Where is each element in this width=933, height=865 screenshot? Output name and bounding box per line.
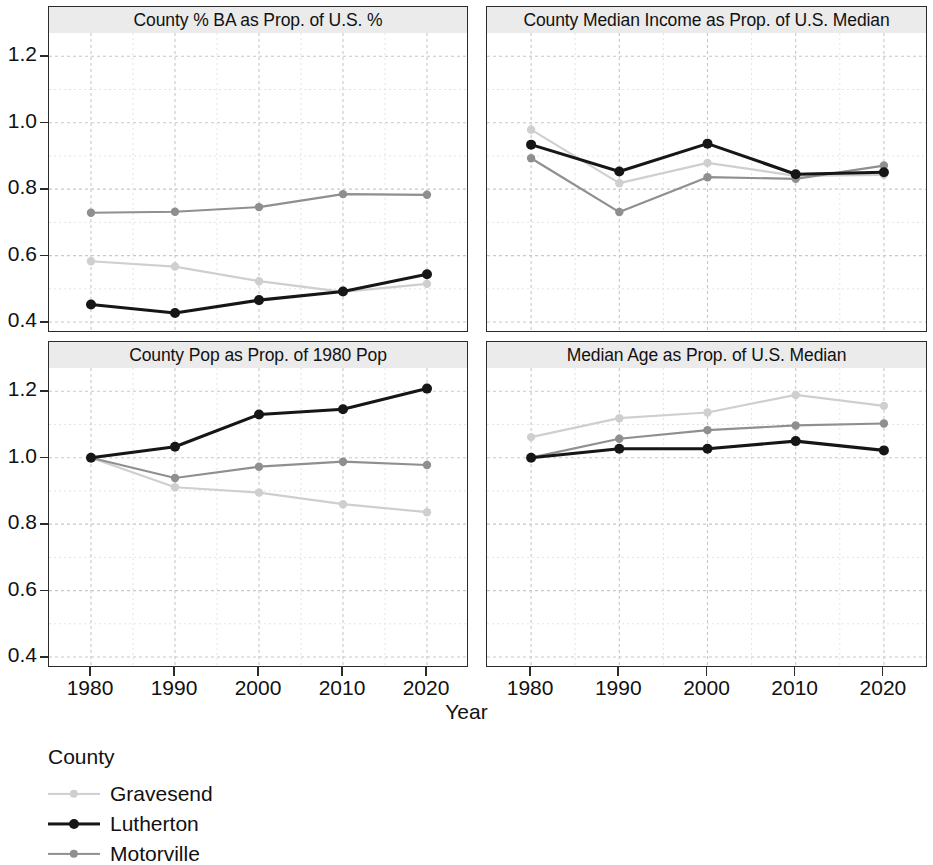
plot-area-ba	[48, 33, 468, 332]
plot-canvas	[487, 368, 927, 667]
data-point	[791, 169, 801, 179]
legend-item-label: Gravesend	[110, 782, 213, 806]
data-point	[423, 191, 431, 199]
y-axis-tick-label: 0.6	[0, 242, 37, 266]
facet-strip-income: County Median Income as Prop. of U.S. Me…	[486, 6, 927, 34]
data-point	[339, 457, 347, 465]
x-axis-tick-label: 1980	[67, 676, 114, 700]
data-point	[703, 173, 711, 181]
x-axis-tick-mark	[257, 667, 259, 676]
data-point	[339, 500, 347, 508]
legend-item[interactable]: Lutherton	[48, 809, 213, 839]
y-axis-tick-label: 1.0	[0, 444, 37, 468]
y-axis-tick-label: 0.8	[0, 175, 37, 199]
data-point	[170, 442, 180, 452]
data-point	[170, 308, 180, 318]
facet-title-median-age: Median Age as Prop. of U.S. Median	[567, 345, 847, 366]
x-axis-tick-label: 1980	[507, 676, 554, 700]
legend-swatch-icon	[48, 845, 100, 863]
data-point	[615, 179, 623, 187]
plot-area-income	[486, 33, 927, 332]
data-point	[792, 391, 800, 399]
data-point	[339, 190, 347, 198]
y-axis-tick-label: 0.4	[0, 308, 37, 332]
plot-canvas	[487, 33, 927, 332]
data-point	[791, 436, 801, 446]
x-axis-tick-label: 1990	[595, 676, 642, 700]
facet-strip-ba: County % BA as Prop. of U.S. %	[48, 6, 468, 34]
facet-strip-population: County Pop as Prop. of 1980 Pop	[48, 341, 468, 369]
x-axis-tick-label: 2020	[403, 676, 450, 700]
data-point	[614, 167, 624, 177]
x-axis-tick-label: 1990	[151, 676, 198, 700]
legend-item-label: Lutherton	[110, 812, 199, 836]
y-axis-tick-label: 1.0	[0, 109, 37, 133]
data-point	[254, 410, 264, 420]
facet-panel-median-age: Median Age as Prop. of U.S. Median	[486, 341, 927, 667]
data-point	[171, 483, 179, 491]
x-axis-tick-label: 2000	[235, 676, 282, 700]
data-point	[171, 474, 179, 482]
data-point	[423, 508, 431, 516]
data-point	[615, 435, 623, 443]
data-point	[526, 140, 536, 150]
x-axis-tick-label: 2020	[860, 676, 907, 700]
y-axis-tick-label: 1.2	[0, 377, 37, 401]
x-axis-title: Year	[0, 700, 933, 724]
legend-item-label: Motorville	[110, 842, 200, 865]
data-point	[422, 384, 432, 394]
data-point	[87, 257, 95, 265]
x-axis-tick-mark	[794, 667, 796, 676]
y-axis-tick-label: 0.8	[0, 510, 37, 534]
x-axis-tick-mark	[706, 667, 708, 676]
x-axis-tick-mark	[425, 667, 427, 676]
facet-title-income: County Median Income as Prop. of U.S. Me…	[523, 10, 889, 31]
data-point	[527, 433, 535, 441]
data-point	[703, 159, 711, 167]
data-point	[527, 154, 535, 162]
data-point	[171, 208, 179, 216]
data-point	[615, 208, 623, 216]
data-point	[338, 286, 348, 296]
plot-area-median-age	[486, 368, 927, 667]
facet-strip-median-age: Median Age as Prop. of U.S. Median	[486, 341, 927, 369]
facet-panel-income: County Median Income as Prop. of U.S. Me…	[486, 6, 927, 332]
data-point	[86, 299, 96, 309]
plot-canvas	[49, 368, 468, 667]
data-point	[338, 404, 348, 414]
x-axis-tick-label: 2000	[683, 676, 730, 700]
data-point	[880, 419, 888, 427]
legend-point	[70, 850, 78, 858]
data-point	[527, 125, 535, 133]
data-point	[423, 280, 431, 288]
facet-title-population: County Pop as Prop. of 1980 Pop	[129, 345, 387, 366]
facet-panel-ba: County % BA as Prop. of U.S. %	[48, 6, 468, 332]
x-axis-tick-label: 2010	[319, 676, 366, 700]
legend: County GravesendLuthertonMotorville	[48, 745, 213, 865]
data-point	[792, 421, 800, 429]
legend-point	[69, 819, 79, 829]
data-point	[255, 462, 263, 470]
legend-point	[70, 790, 78, 798]
data-point	[255, 277, 263, 285]
plot-canvas	[49, 33, 468, 332]
y-axis-tick-label: 1.2	[0, 42, 37, 66]
facet-title-ba: County % BA as Prop. of U.S. %	[134, 10, 383, 31]
data-point	[703, 444, 713, 454]
y-axis-tick-label: 0.4	[0, 643, 37, 667]
x-axis-tick-mark	[89, 667, 91, 676]
data-point	[422, 269, 432, 279]
x-axis-tick-mark	[882, 667, 884, 676]
data-point	[255, 488, 263, 496]
data-point	[615, 414, 623, 422]
legend-item[interactable]: Motorville	[48, 839, 213, 865]
data-point	[86, 453, 96, 463]
legend-swatch-icon	[48, 785, 100, 803]
legend-item[interactable]: Gravesend	[48, 779, 213, 809]
data-point	[703, 426, 711, 434]
data-point	[255, 203, 263, 211]
data-point	[87, 209, 95, 217]
x-axis-tick-mark	[617, 667, 619, 676]
x-axis-tick-mark	[341, 667, 343, 676]
